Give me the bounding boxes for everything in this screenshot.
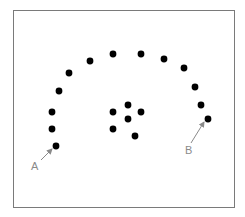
arc-dot bbox=[181, 65, 188, 72]
arc-dot bbox=[110, 51, 117, 58]
cluster-dot bbox=[125, 116, 132, 123]
dot-pattern-diagram: AB bbox=[0, 0, 245, 217]
cluster-dot bbox=[125, 102, 132, 109]
arc-dot bbox=[49, 126, 56, 133]
cluster-dot bbox=[110, 126, 117, 133]
arc-dot bbox=[205, 116, 212, 123]
annotation-label-b: B bbox=[185, 144, 192, 156]
cluster-dot bbox=[132, 133, 139, 140]
arc-dot bbox=[192, 84, 199, 91]
arc-dot bbox=[198, 102, 205, 109]
diagram-frame bbox=[14, 11, 235, 208]
arc-dot bbox=[49, 109, 56, 116]
arc-dot bbox=[53, 143, 60, 150]
annotation-label-a: A bbox=[31, 160, 39, 172]
cluster-dot bbox=[138, 109, 145, 116]
arc-dot bbox=[87, 58, 94, 65]
arc-dot bbox=[138, 51, 145, 58]
arc-dot bbox=[56, 88, 63, 95]
cluster-dot bbox=[110, 109, 117, 116]
arc-dot bbox=[161, 56, 168, 63]
arc-dot bbox=[66, 70, 73, 77]
